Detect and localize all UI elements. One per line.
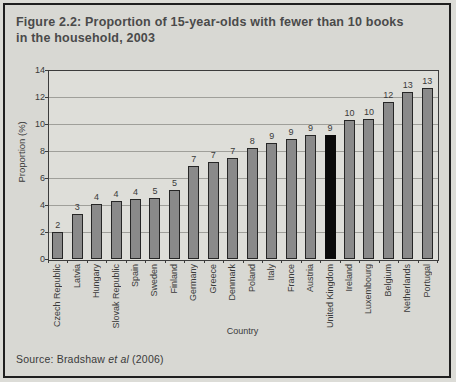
x-tick-label: Finland [169, 264, 180, 294]
x-tick-mark [204, 260, 205, 263]
x-tick-mark [301, 260, 302, 263]
bar-value-label: 7 [184, 154, 204, 164]
bar-value-label: 12 [378, 90, 398, 100]
x-tick-mark [418, 260, 419, 263]
y-tick-mark [45, 151, 48, 152]
bar-luxembourg [363, 119, 374, 259]
bar-value-label: 5 [145, 186, 165, 196]
gridline-2 [49, 232, 438, 233]
x-tick-mark [145, 260, 146, 263]
bar-value-label: 4 [126, 187, 146, 197]
bar-hungary [91, 204, 102, 259]
x-tick-mark [184, 260, 185, 263]
bar-value-label: 9 [262, 131, 282, 141]
x-tick-mark [437, 260, 438, 263]
bar-finland [169, 190, 180, 259]
bar-latvia [72, 214, 83, 259]
bar-austria [305, 135, 316, 259]
x-tick-mark [243, 260, 244, 263]
gridline-6 [49, 178, 438, 179]
y-tick-label: 4 [19, 200, 45, 210]
bar-value-label: 9 [301, 123, 321, 133]
x-tick-mark [398, 260, 399, 263]
x-tick-mark [48, 260, 49, 263]
x-tick-mark [106, 260, 107, 263]
bar-italy [266, 143, 277, 259]
bar-chart: Proportion (%) 024681012142Czech Republi… [5, 5, 456, 380]
x-tick-mark [320, 260, 321, 263]
bar-portugal [422, 88, 433, 259]
x-tick-mark [281, 260, 282, 263]
bar-value-label: 7 [223, 146, 243, 156]
gridline-8 [49, 151, 438, 152]
x-tick-mark [67, 260, 68, 263]
x-tick-label: Latvia [72, 264, 83, 288]
bar-value-label: 10 [339, 108, 359, 118]
y-tick-mark [45, 178, 48, 179]
x-tick-label: Austria [305, 264, 316, 292]
bar-sweden [149, 198, 160, 259]
y-tick-mark [45, 205, 48, 206]
x-tick-label: Italy [266, 264, 277, 281]
x-tick-label: Denmark [227, 264, 238, 301]
bar-poland [247, 148, 258, 259]
x-tick-label: Luxembourg [363, 264, 374, 314]
y-tick-label: 0 [19, 254, 45, 264]
bar-ireland [344, 120, 355, 259]
x-tick-label: Slovak Republic [111, 264, 122, 329]
x-tick-mark [379, 260, 380, 263]
x-tick-mark [126, 260, 127, 263]
bar-belgium [383, 102, 394, 259]
bar-value-label: 4 [106, 189, 126, 199]
x-tick-label: Spain [130, 264, 141, 287]
x-tick-mark [359, 260, 360, 263]
bar-value-label: 13 [398, 80, 418, 90]
y-tick-mark [45, 232, 48, 233]
bar-united-kingdom [325, 135, 336, 259]
bar-slovak-republic [111, 201, 122, 259]
bar-czech-republic [52, 232, 63, 259]
figure-2-2-page: Figure 2.2: Proportion of 15-year-olds w… [0, 0, 456, 382]
x-tick-mark [165, 260, 166, 263]
source-suffix: (2006) [129, 353, 164, 365]
y-tick-label: 2 [19, 227, 45, 237]
bar-greece [208, 162, 219, 259]
bar-netherlands [402, 92, 413, 259]
bar-value-label: 2 [48, 220, 68, 230]
y-tick-mark [45, 124, 48, 125]
bar-france [286, 139, 297, 259]
x-axis-title: Country [48, 326, 437, 336]
gridline-10 [49, 124, 438, 125]
bar-value-label: 10 [359, 107, 379, 117]
x-tick-label: Greece [208, 264, 219, 294]
y-tick-label: 10 [19, 119, 45, 129]
bar-value-label: 3 [67, 202, 87, 212]
y-tick-label: 14 [19, 65, 45, 75]
source-italic: et al [108, 353, 129, 365]
y-tick-mark [45, 70, 48, 71]
y-tick-label: 12 [19, 92, 45, 102]
x-tick-mark [87, 260, 88, 263]
x-tick-label: Ireland [344, 264, 355, 292]
bar-value-label: 4 [87, 192, 107, 202]
x-tick-label: France [286, 264, 297, 292]
x-tick-label: Hungary [91, 264, 102, 298]
bar-value-label: 13 [417, 76, 437, 86]
x-tick-label: Netherlands [402, 264, 413, 313]
bar-value-label: 9 [281, 127, 301, 137]
x-tick-mark [262, 260, 263, 263]
x-tick-mark [223, 260, 224, 263]
bar-value-label: 9 [320, 123, 340, 133]
source-prefix: Source: Bradshaw [16, 353, 108, 365]
x-tick-label: Germany [188, 264, 199, 301]
bar-value-label: 7 [203, 150, 223, 160]
y-tick-label: 8 [19, 146, 45, 156]
y-tick-mark [45, 97, 48, 98]
x-tick-label: Poland [247, 264, 258, 292]
source-note: Source: Bradshaw et al (2006) [16, 353, 164, 365]
bar-denmark [227, 158, 238, 259]
bar-value-label: 8 [242, 136, 262, 146]
y-tick-label: 6 [19, 173, 45, 183]
x-tick-label: Sweden [149, 264, 160, 297]
bar-germany [188, 166, 199, 259]
